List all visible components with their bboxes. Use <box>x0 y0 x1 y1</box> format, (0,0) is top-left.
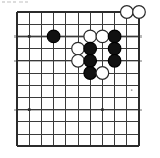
go-board[interactable] <box>0 0 160 158</box>
go-board-figure: Go board position diagram <box>0 0 160 158</box>
black-stone-g5[interactable] <box>84 55 97 68</box>
white-stone-h3[interactable] <box>96 30 109 43</box>
hoshi-lower-right <box>101 108 104 111</box>
white-stone-f5[interactable] <box>72 55 85 68</box>
black-stone-i5[interactable] <box>108 55 121 68</box>
hoshi-upper-left <box>28 35 31 38</box>
white-stone-k1[interactable] <box>133 6 146 19</box>
white-stone-g3[interactable] <box>84 30 97 43</box>
white-stone-f4[interactable] <box>72 42 85 55</box>
black-stone-g6[interactable] <box>84 67 97 80</box>
faint-corner-speck <box>131 89 133 91</box>
hoshi-lower-left <box>28 108 31 111</box>
black-stone-d3[interactable] <box>47 30 60 43</box>
white-stone-h6[interactable] <box>96 67 109 80</box>
black-stone-i3[interactable] <box>108 30 121 43</box>
grid-lines <box>17 12 139 146</box>
marks-layer <box>131 89 133 91</box>
white-stone-j1[interactable] <box>121 6 134 19</box>
black-stone-g4[interactable] <box>84 42 97 55</box>
stones-layer[interactable] <box>47 6 145 80</box>
black-stone-i4[interactable] <box>108 42 121 55</box>
